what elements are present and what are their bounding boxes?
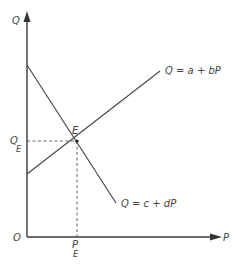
qe-label-sub: E — [16, 144, 22, 154]
equilibrium-point — [75, 139, 78, 142]
supply-line — [27, 71, 160, 174]
x-axis-label: P — [223, 232, 230, 243]
y-axis-arrow-icon — [24, 11, 31, 22]
y-axis-label: Q — [12, 15, 20, 26]
demand-equation-label: Q = c + dP — [121, 198, 177, 209]
equilibrium-diagram: Q P O E Q E P E Q = a + bP Q = c + dP — [0, 0, 235, 269]
x-axis-arrow-icon — [210, 234, 222, 241]
equilibrium-label: E — [72, 125, 79, 136]
supply-equation-label: Q = a + bP — [165, 65, 222, 76]
pe-label-sub: E — [73, 249, 79, 259]
origin-label: O — [13, 232, 21, 243]
